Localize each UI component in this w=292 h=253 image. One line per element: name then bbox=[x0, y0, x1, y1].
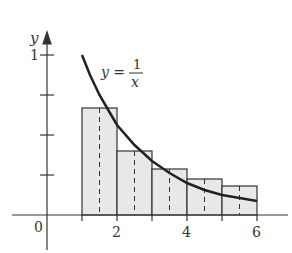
axes bbox=[12, 32, 288, 250]
equation-denominator: x bbox=[131, 74, 139, 90]
equation-lhs: y = bbox=[100, 64, 125, 80]
x-tick-2: 2 bbox=[112, 224, 121, 240]
equation-numerator: 1 bbox=[133, 57, 141, 72]
y-axis-label: y bbox=[29, 29, 39, 47]
x-tick-6: 6 bbox=[252, 224, 261, 240]
riemann-sum-diagram: y 1 0 2 4 6 y = 1 x bbox=[0, 0, 292, 253]
origin-label: 0 bbox=[34, 219, 43, 235]
x-tick-4: 4 bbox=[182, 224, 191, 240]
y-tick-1: 1 bbox=[30, 47, 39, 63]
